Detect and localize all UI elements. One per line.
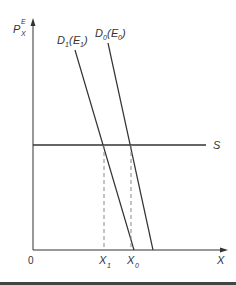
x-axis-label: X bbox=[216, 254, 225, 266]
demand-label-d1: D 1 ( E 1 ) bbox=[57, 34, 88, 48]
svg-text:X: X bbox=[98, 254, 107, 266]
svg-text:D: D bbox=[95, 27, 103, 39]
x-tick-label-x1: X 1 bbox=[98, 254, 111, 269]
demand-label-d0: D 0 ( E 0 ) bbox=[95, 27, 126, 41]
y-axis-label-sup: E bbox=[21, 18, 26, 25]
origin-label: 0 bbox=[28, 255, 34, 266]
y-axis-arrow-icon bbox=[31, 18, 36, 26]
demand-supply-diagram: P E X D 1 ( E 1 ) D 0 ( E 0 ) S 0 X 1 X … bbox=[0, 0, 236, 285]
svg-text:0: 0 bbox=[135, 262, 139, 269]
y-axis-label: P bbox=[13, 23, 21, 35]
y-axis-label-sub: X bbox=[20, 30, 26, 37]
x-axis-arrow-icon bbox=[220, 248, 228, 253]
svg-text:X: X bbox=[126, 254, 135, 266]
svg-text:D: D bbox=[57, 34, 65, 46]
demand-curve-d1 bbox=[75, 50, 134, 250]
supply-label: S bbox=[213, 139, 221, 151]
x-tick-label-x0: X 0 bbox=[126, 254, 139, 269]
svg-text:1: 1 bbox=[107, 262, 111, 269]
